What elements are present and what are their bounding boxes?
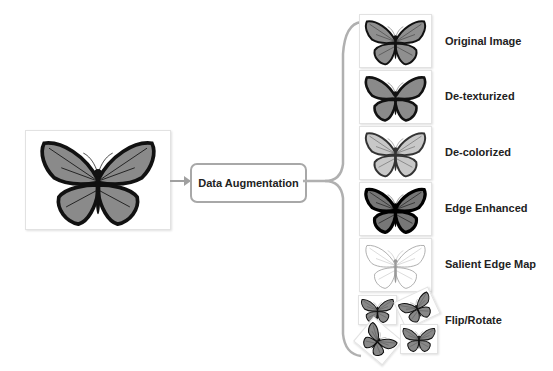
butterfly-edge-map-icon — [360, 239, 431, 291]
label-salient-edge-map: Salient Edge Map — [445, 258, 536, 270]
data-augmentation-label: Data Augmentation — [198, 177, 298, 189]
butterfly-original-icon — [360, 15, 431, 67]
brace-connector — [303, 14, 363, 364]
butterfly-edge-enhanced-icon — [360, 183, 431, 235]
data-augmentation-box: Data Augmentation — [190, 163, 307, 203]
label-edge-enhanced: Edge Enhanced — [445, 202, 528, 214]
label-de-texturized: De-texturized — [445, 90, 515, 102]
butterfly-decolorized-icon — [360, 127, 431, 179]
butterfly-icon — [26, 131, 170, 229]
label-flip-rotate: Flip/Rotate — [445, 314, 502, 326]
input-image-frame — [25, 130, 171, 230]
decolorized-thumb — [359, 126, 432, 180]
original-image-thumb — [359, 14, 432, 68]
label-de-colorized: De-colorized — [445, 146, 511, 158]
label-original-image: Original Image — [445, 35, 521, 47]
arrow-icon — [168, 174, 192, 188]
edge-enhanced-thumb — [359, 182, 432, 236]
butterfly-detexturized-icon — [360, 71, 431, 123]
salient-edge-map-thumb — [359, 238, 432, 292]
detexturized-thumb — [359, 70, 432, 124]
